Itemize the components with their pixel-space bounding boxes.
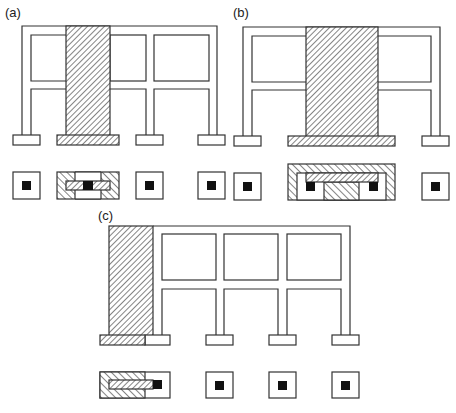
footing: [332, 335, 359, 345]
structural-frames-figure: (a): [0, 0, 456, 413]
footing: [136, 135, 163, 145]
column-icon: [431, 182, 440, 191]
footing: [422, 136, 449, 146]
footing: [198, 135, 225, 145]
column-icon: [83, 181, 93, 190]
footing: [269, 335, 296, 345]
frame-elevation-c: [100, 226, 359, 345]
combined-footing: [57, 135, 119, 145]
column-icon: [145, 181, 154, 190]
panel-c: (c): [98, 208, 359, 398]
column-icon: [22, 181, 31, 190]
shear-wall-b: [306, 27, 378, 137]
frame-elevation-a: [13, 26, 225, 145]
column-icon: [306, 182, 315, 191]
column-icon: [243, 182, 252, 191]
footing-plan-b: [234, 164, 449, 200]
frame-elevation-b: [234, 27, 449, 146]
panel-a-label: (a): [5, 5, 21, 20]
shear-wall-c: [109, 226, 153, 336]
footing-plan-a: [13, 172, 225, 199]
shear-wall-a: [66, 26, 110, 136]
footing: [13, 135, 40, 145]
footing: [145, 335, 170, 345]
column-icon: [153, 380, 162, 389]
panel-a: (a): [5, 5, 225, 199]
panel-c-label: (c): [98, 208, 113, 223]
column-icon: [341, 381, 350, 390]
combined-footing: [288, 136, 395, 146]
panel-b: (b): [233, 5, 449, 200]
column-icon: [278, 381, 287, 390]
footing-plan-c: [100, 372, 359, 398]
column-icon: [207, 181, 216, 190]
column-icon: [369, 182, 378, 191]
panel-b-label: (b): [233, 5, 249, 20]
footing: [206, 335, 233, 345]
column-icon: [215, 381, 224, 390]
footing: [234, 136, 261, 146]
combined-footing: [100, 335, 145, 345]
